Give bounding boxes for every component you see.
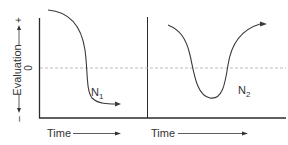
arrow-head-n2-icon <box>260 22 267 27</box>
minus-sign-group: – <box>13 116 24 122</box>
diagram-canvas: Evaluation + – 0 N1 N2 Time Time <box>0 0 288 145</box>
y-axis-label: Evaluation <box>11 44 23 95</box>
arrow-up-icon <box>17 25 21 30</box>
curve-n2 <box>168 24 260 98</box>
x-axis-label-1: Time <box>47 127 71 139</box>
zero-label: 0 <box>23 65 34 71</box>
arrow-head-n1-icon <box>115 102 121 107</box>
curve-n1 <box>48 10 116 104</box>
arrow-right-icon <box>242 132 248 136</box>
plus-sign: + <box>13 17 24 23</box>
plus-sign-group: + <box>13 17 24 23</box>
x-axis-label-2: Time <box>151 127 175 139</box>
arrow-right-icon <box>115 132 121 136</box>
curve-label-n2: N2 <box>238 84 251 99</box>
zero-label-group: 0 <box>23 65 34 71</box>
minus-sign: – <box>13 116 24 122</box>
arrow-down-icon <box>17 108 21 113</box>
y-axis-label-group: Evaluation <box>11 44 23 95</box>
